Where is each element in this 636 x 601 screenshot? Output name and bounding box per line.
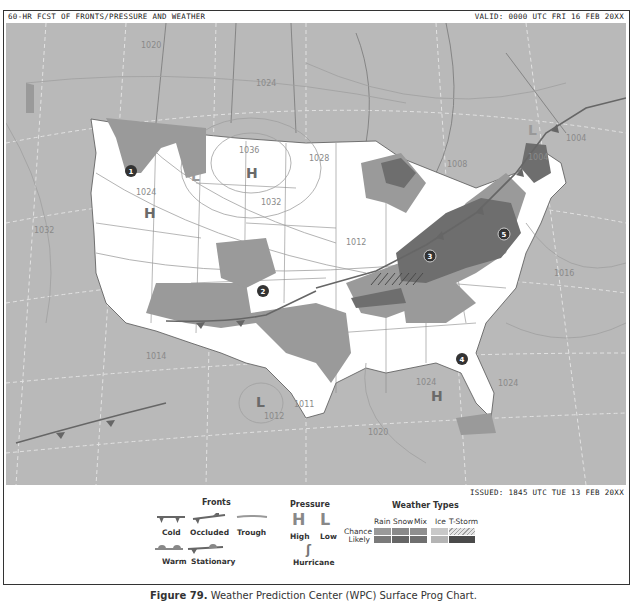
- swatch-rain-likely: [374, 536, 391, 543]
- svg-text:1028: 1028: [309, 154, 329, 163]
- low-pressure-center: L: [191, 168, 200, 184]
- marker-1: 1: [125, 165, 137, 177]
- occluded-label: Occluded: [190, 528, 229, 537]
- figure-caption: Figure 79. Weather Prediction Center (WP…: [150, 590, 477, 601]
- stationary-label: Stationary: [191, 557, 235, 566]
- svg-text:2: 2: [261, 288, 266, 296]
- marker-2: 2: [257, 285, 269, 297]
- svg-text:1008: 1008: [447, 160, 467, 169]
- marker-5: 5: [498, 228, 510, 240]
- swatch-rain-chance: [374, 528, 391, 535]
- swatch-snow-chance: [392, 528, 409, 535]
- svg-text:1004: 1004: [528, 153, 548, 162]
- svg-text:1012: 1012: [346, 238, 366, 247]
- svg-text:1016: 1016: [554, 269, 574, 278]
- low-label: Low: [320, 532, 337, 541]
- col-ice: Ice: [435, 517, 446, 526]
- svg-text:1: 1: [129, 168, 134, 176]
- swatch-tstorm-likely: [449, 536, 475, 543]
- trough-label: Trough: [237, 528, 266, 537]
- high-pressure-center: H: [431, 388, 443, 404]
- chart-title: 60-HR FCST OF FRONTS/PRESSURE AND WEATHE…: [8, 12, 205, 21]
- svg-text:1024: 1024: [256, 79, 276, 88]
- low-symbol-icon: L: [320, 510, 330, 529]
- high-label: High: [290, 532, 310, 541]
- swatch-ice-chance: [431, 528, 448, 535]
- svg-text:1020: 1020: [141, 41, 161, 50]
- swatch-mix-chance: [410, 528, 427, 535]
- low-pressure-center: L: [256, 394, 265, 410]
- figure-text: Weather Prediction Center (WPC) Surface …: [207, 590, 476, 601]
- occluded-front-icon: [195, 518, 200, 524]
- svg-text:1032: 1032: [261, 198, 281, 207]
- svg-text:1024: 1024: [136, 188, 156, 197]
- svg-text:1020: 1020: [368, 428, 388, 437]
- warm-label: Warm: [162, 557, 187, 566]
- legend: Fronts Cold Occluded Trough Warm Station…: [140, 495, 500, 575]
- valid-time: VALID: 0000 UTC FRI 16 FEB 20XX: [475, 12, 624, 21]
- warm-front-icon: [158, 545, 166, 549]
- front-symbols-row1: [155, 513, 270, 525]
- map-canvas: 1020 1024 1036 1028 1024 1032 1032 1016 …: [6, 23, 626, 485]
- swatch-mix-likely: [410, 536, 427, 543]
- trough-icon: [237, 516, 267, 517]
- svg-text:5: 5: [502, 231, 507, 239]
- surface-prog-map: 1020 1024 1036 1028 1024 1032 1032 1016 …: [6, 23, 626, 485]
- col-snow: Snow: [393, 517, 413, 526]
- svg-text:1036: 1036: [239, 146, 259, 155]
- figure-number: Figure 79.: [150, 590, 207, 601]
- svg-text:1011: 1011: [294, 400, 314, 409]
- svg-text:1024: 1024: [416, 378, 436, 387]
- stationary-front-icon: [191, 549, 197, 554]
- weather-types-title: Weather Types: [392, 501, 459, 510]
- cold-front-icon: [159, 517, 164, 523]
- svg-text:1024: 1024: [498, 379, 518, 388]
- hurricane-label: Hurricane: [293, 558, 335, 567]
- svg-text:3: 3: [428, 253, 433, 261]
- col-rain: Rain: [374, 517, 390, 526]
- marker-3: 3: [424, 250, 436, 262]
- svg-text:1014: 1014: [146, 352, 166, 361]
- swatch-ice-likely: [431, 536, 448, 543]
- low-pressure-center: L: [528, 122, 537, 138]
- high-pressure-center: H: [246, 165, 258, 181]
- swatch-tstorm-chance: [449, 528, 475, 535]
- hurricane-icon: ʃ: [306, 543, 311, 557]
- pressure-title: Pressure: [290, 500, 330, 509]
- svg-text:1004: 1004: [566, 134, 586, 143]
- front-symbols-row2: [153, 540, 233, 554]
- row-likely: Likely: [344, 535, 370, 544]
- cold-label: Cold: [162, 528, 181, 537]
- svg-text:1012: 1012: [264, 412, 284, 421]
- svg-text:4: 4: [460, 356, 465, 364]
- col-tstorm: T-Storm: [449, 517, 478, 526]
- svg-text:1032: 1032: [34, 226, 54, 235]
- high-pressure-center: H: [144, 205, 156, 221]
- col-mix: Mix: [414, 517, 427, 526]
- marker-4: 4: [456, 353, 468, 365]
- high-symbol-icon: H: [292, 510, 305, 529]
- swatch-snow-likely: [392, 536, 409, 543]
- fronts-title: Fronts: [202, 498, 231, 507]
